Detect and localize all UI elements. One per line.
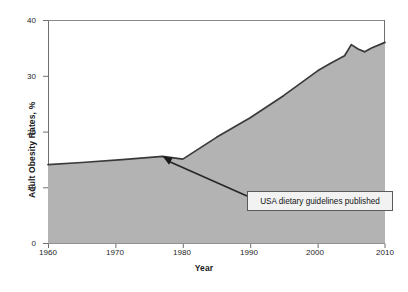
annotation-callout-usa-dietary-guidelines: USA dietary guidelines published <box>247 191 393 211</box>
annotation-text: USA dietary guidelines published <box>260 197 380 206</box>
plot-area <box>0 0 408 292</box>
obesity-rates-area-chart: Adult Obesity Rates, % Year 40 30 20 10 … <box>0 0 408 292</box>
obesity-rate-area-fill <box>48 42 385 243</box>
x-tick-marks <box>49 244 386 249</box>
y-tick-marks <box>43 21 48 244</box>
